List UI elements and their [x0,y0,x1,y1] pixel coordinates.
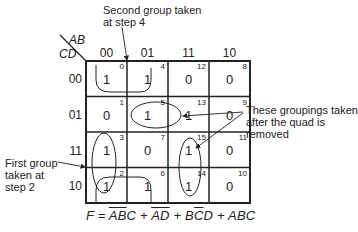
boolean-expression: F = ABC + AD + BCD + ABC [86,208,255,223]
second-group-arrow [122,27,127,60]
term-2: AD [151,208,169,223]
quad-group-bottom [96,177,151,203]
formula-lhs: F = [86,208,109,223]
term-3: BCD [185,208,213,223]
quad-group-top [96,65,151,92]
grouping-arrow-upper [183,112,243,116]
first-group-arrow [58,162,85,167]
corner-diagonal [60,35,86,61]
grouping-arrow-lower [196,113,243,148]
group-ellipse-5-13 [131,102,181,128]
first-group-ellipse [92,133,116,193]
term-4: ABC [228,208,255,223]
kmap-drawing [0,0,358,232]
term-1: ABC [109,208,136,223]
